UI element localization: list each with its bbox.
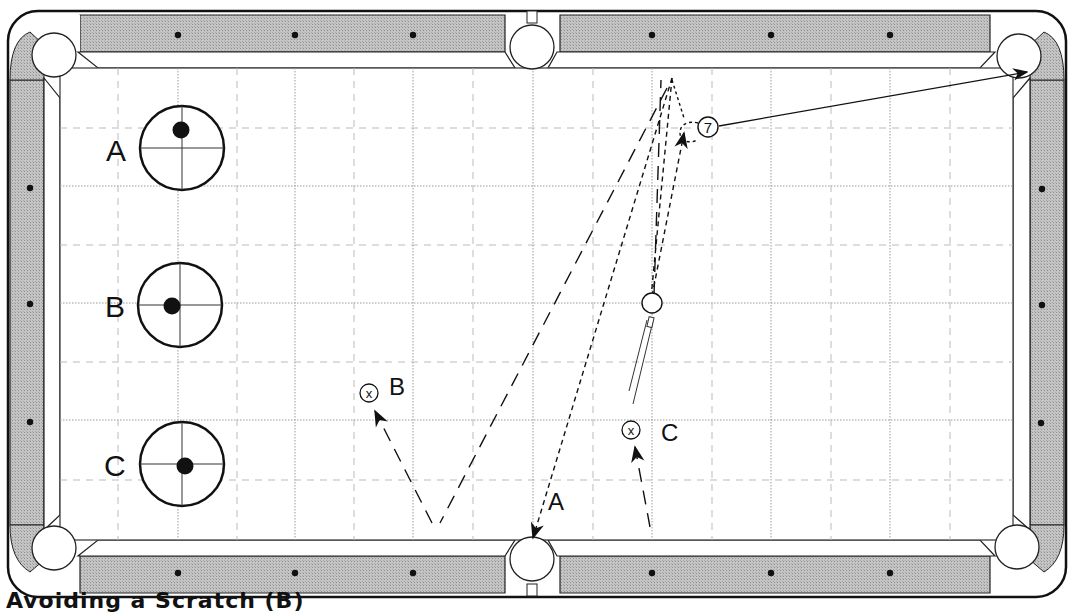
pocket-bottom-right: [995, 525, 1039, 569]
pocket-bottom-middle: [510, 537, 554, 581]
label-c: C: [104, 449, 126, 482]
left-rail: [10, 80, 44, 525]
pocket-top-left: [32, 33, 76, 77]
tip-dot: [177, 458, 194, 475]
svg-text:x: x: [366, 386, 373, 401]
svg-text:C: C: [661, 419, 678, 446]
object-ball-7: 7: [698, 117, 718, 137]
pocket-bottom-left: [32, 526, 76, 570]
pocket-top-right: [997, 34, 1041, 78]
cushion-outline: [78, 52, 515, 68]
tip-dot: [164, 298, 181, 315]
tip-dot: [173, 122, 190, 139]
label-a: A: [106, 134, 126, 167]
pocket-top-middle: [510, 25, 554, 69]
label-b: B: [105, 290, 125, 323]
path-label-a: A: [548, 488, 564, 515]
cue-ball: [642, 293, 662, 313]
svg-text:x: x: [628, 423, 635, 438]
svg-text:B: B: [389, 373, 405, 400]
svg-text:7: 7: [704, 119, 712, 136]
figure-caption: Avoiding a Scratch (B): [6, 588, 304, 613]
right-rail: [1030, 80, 1064, 525]
